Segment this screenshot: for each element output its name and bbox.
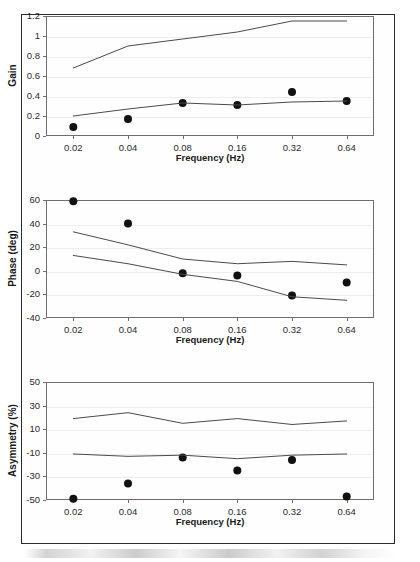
data-point bbox=[69, 123, 77, 131]
series-layer-gain bbox=[0, 0, 374, 186]
series-layer-phase bbox=[0, 186, 374, 372]
data-point bbox=[343, 279, 351, 287]
data-point bbox=[124, 115, 132, 123]
series-line-lower-bound bbox=[73, 454, 346, 459]
data-point bbox=[69, 197, 77, 205]
data-point bbox=[124, 479, 132, 487]
figure-root: 00.20.40.60.811.20.020.040.080.160.320.6… bbox=[0, 0, 420, 562]
chart-panel-gain: 00.20.40.60.811.20.020.040.080.160.320.6… bbox=[0, 0, 374, 186]
data-point bbox=[233, 467, 241, 475]
chart-panel-phase: -40-2002040600.020.040.080.160.320.64Fre… bbox=[0, 186, 374, 368]
series-line-lower-bound bbox=[73, 101, 346, 116]
series-line-upper-bound bbox=[73, 413, 346, 425]
chart-panel-asymmetry: -50-30-101030500.020.040.080.160.320.64F… bbox=[0, 368, 374, 550]
data-point bbox=[288, 456, 296, 464]
data-point bbox=[288, 88, 296, 96]
scan-artifact bbox=[24, 549, 396, 558]
series-layer-asymmetry bbox=[0, 368, 374, 554]
data-point bbox=[69, 495, 77, 503]
series-line-upper-bound bbox=[73, 232, 346, 265]
data-point bbox=[233, 272, 241, 280]
data-point bbox=[124, 220, 132, 228]
series-line-upper-bound bbox=[73, 21, 346, 68]
data-point bbox=[343, 492, 351, 500]
data-point bbox=[179, 269, 187, 277]
